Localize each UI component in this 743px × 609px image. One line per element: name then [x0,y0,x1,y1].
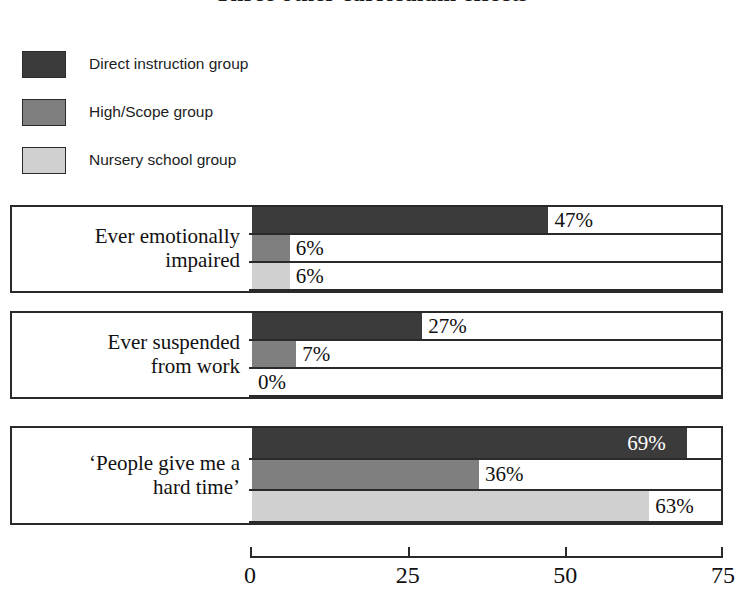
x-axis-tick [721,547,723,558]
x-axis-tick-label: 0 [244,562,256,589]
bar-value-label: 0% [258,370,286,395]
bar-track: 6% [252,263,721,289]
legend-swatch-nursery-school [22,147,66,174]
x-axis-tick [408,547,410,558]
x-axis-tick [565,547,567,558]
bar-group: 27%7%0%Ever suspendedfrom work [10,311,723,399]
bar-value-label: 47% [554,208,593,233]
bar-row[interactable]: 63% [12,491,721,523]
legend-item: High/Scope group [22,88,442,136]
bar-fill [252,491,649,521]
bar-value-label: 6% [296,236,324,261]
legend-item-label: Nursery school group [89,151,236,169]
bar-row[interactable]: 36% [12,460,721,492]
bar-row[interactable]: 6% [12,263,721,291]
bar-row[interactable]: 7% [12,341,721,369]
x-axis-tick-label: 75 [711,562,735,589]
bar-track: 63% [252,491,721,521]
bar-row[interactable]: 47% [12,207,721,235]
legend-item: Direct instruction group [22,40,442,88]
bar-track: 27% [252,313,721,339]
bar-fill [252,428,687,458]
bar-fill [252,235,290,261]
bar-row[interactable]: 69% [12,428,721,460]
bar-track: 7% [252,341,721,367]
bar-track: 69% [252,428,721,458]
bar-value-label: 27% [428,314,467,339]
legend-swatch-direct-instruction [22,51,66,78]
bar-value-label: 69% [627,430,666,455]
chart-title: Three other curriculum effects [0,0,743,7]
legend-item: Nursery school group [22,136,442,184]
bar-row[interactable]: 0% [12,369,721,397]
x-axis-tick [250,547,252,558]
legend-item-label: High/Scope group [89,103,213,121]
bar-value-label: 7% [302,342,330,367]
bar-track: 6% [252,235,721,261]
bar-track: 36% [252,460,721,490]
legend-swatch-high-scope [22,99,66,126]
bar-group: 47%6%6%Ever emotionallyimpaired [10,205,723,293]
x-axis: 0255075 [250,556,723,557]
bar-value-label: 36% [485,462,524,487]
bar-track: 0% [252,369,721,395]
bar-fill [252,207,548,233]
x-axis-tick-label: 25 [396,562,420,589]
bar-fill [252,313,422,339]
bar-fill [252,263,290,289]
x-axis-tick-label: 50 [553,562,577,589]
bar-track: 47% [252,207,721,233]
legend-item-label: Direct instruction group [89,55,248,73]
chart-legend: Direct instruction groupHigh/Scope group… [22,40,442,184]
bar-row[interactable]: 27% [12,313,721,341]
bar-group: 69%36%63%‘People give me ahard time’ [10,426,723,525]
bar-fill [252,460,479,490]
bar-row[interactable]: 6% [12,235,721,263]
bar-value-label: 6% [296,264,324,289]
x-axis-line [250,556,723,558]
bar-value-label: 63% [655,494,694,519]
bar-fill [252,341,296,367]
